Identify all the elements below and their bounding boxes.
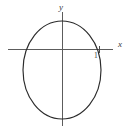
y-axis-label: y xyxy=(59,3,63,12)
x-axis-label: x xyxy=(118,40,122,49)
x-tick-label-1: 1 xyxy=(94,52,98,60)
figure-canvas: y x 1 xyxy=(0,0,132,128)
graph-svg xyxy=(0,0,132,128)
